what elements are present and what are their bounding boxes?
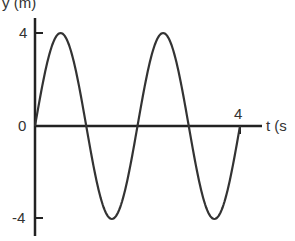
x-tick-label-4: 4 bbox=[234, 105, 242, 122]
chart: y (m) 4 0 -4 4 t (s bbox=[0, 0, 295, 241]
y-tick-label-4: 4 bbox=[19, 24, 27, 41]
x-axis-label: t (s bbox=[266, 117, 287, 134]
y-axis-label: y (m) bbox=[2, 0, 36, 11]
y-tick-label-neg4: -4 bbox=[12, 209, 25, 226]
y-tick-label-0: 0 bbox=[18, 117, 26, 134]
